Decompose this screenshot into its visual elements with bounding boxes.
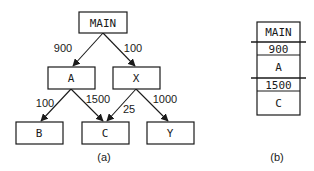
call-graph-figure: 900 100 100 1500 25 1000 MAIN A X B C Y [0, 0, 314, 171]
caption-a: (a) [97, 151, 110, 163]
weight-x-y: 1000 [153, 93, 177, 105]
node-a-label: A [68, 72, 75, 85]
stack-entry-weight-1500: 1500 [265, 79, 292, 92]
node-x-label: X [133, 72, 140, 85]
weight-x-c: 25 [123, 103, 135, 115]
weight-a-c: 1500 [86, 93, 110, 105]
edge-main-to-a [73, 33, 103, 66]
node-c: C [82, 122, 129, 144]
call-stack-diagram: MAIN 900 A 1500 C (b) [251, 22, 306, 163]
node-b-label: B [36, 127, 43, 140]
weight-main-x: 100 [124, 42, 142, 54]
stack-entry-weight-900: 900 [269, 43, 289, 56]
stack-entry-a: A [275, 61, 282, 74]
stack-entry-c: C [275, 97, 282, 110]
node-a: A [48, 67, 95, 89]
weight-main-a: 900 [54, 42, 72, 54]
weight-a-b: 100 [36, 97, 54, 109]
caption-b: (b) [270, 151, 283, 163]
node-c-label: C [102, 127, 109, 140]
call-tree-diagram: 900 100 100 1500 25 1000 MAIN A X B C Y [16, 12, 194, 163]
node-main-label: MAIN [90, 17, 117, 30]
stack-entry-main: MAIN [265, 26, 292, 39]
node-main: MAIN [79, 12, 127, 33]
node-y: Y [147, 122, 194, 144]
node-x: X [113, 67, 160, 89]
node-b: B [16, 122, 63, 144]
node-y-label: Y [167, 127, 174, 140]
